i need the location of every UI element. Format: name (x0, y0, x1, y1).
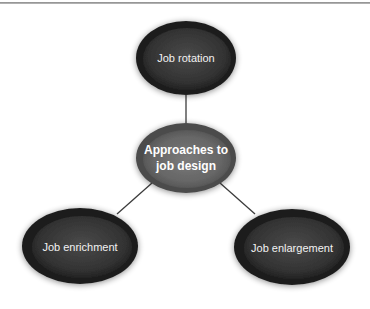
diagram-canvas (0, 0, 370, 309)
connector-enlargement (220, 183, 255, 214)
node-job-enrichment-shape (22, 208, 138, 284)
node-job-enlargement-shape (234, 209, 350, 285)
node-center-shape (136, 123, 236, 193)
node-job-rotation-shape (136, 21, 236, 95)
connector-enrichment (117, 183, 152, 214)
